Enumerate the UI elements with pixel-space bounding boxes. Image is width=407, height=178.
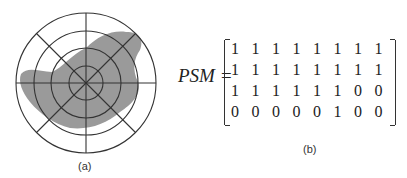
- left-bracket: [225, 39, 230, 126]
- cell: 1: [272, 82, 293, 100]
- cell: 0: [293, 103, 314, 121]
- cell: 1: [272, 61, 293, 79]
- cell: 1: [354, 40, 375, 58]
- matrix-row: 11111111: [231, 40, 395, 58]
- caption-a: (a): [78, 160, 91, 172]
- cell: 1: [334, 40, 355, 58]
- cell: 1: [252, 61, 273, 79]
- right-bracket: [390, 39, 395, 126]
- matrix-row: 11111111: [231, 61, 395, 79]
- cell: 1: [293, 82, 314, 100]
- cell: 1: [293, 40, 314, 58]
- cell: 1: [334, 61, 355, 79]
- matrix-row: 00000100: [231, 103, 395, 121]
- cell: 0: [272, 103, 293, 121]
- cell: 1: [231, 61, 252, 79]
- cell: 1: [354, 61, 375, 79]
- cell: 0: [252, 103, 273, 121]
- cell: 1: [231, 40, 252, 58]
- matrix-row: 11111100: [231, 82, 395, 100]
- cell: 0: [354, 82, 375, 100]
- cell: 1: [293, 61, 314, 79]
- cell: 1: [272, 40, 293, 58]
- cell: 1: [334, 103, 355, 121]
- psm-matrix: 11111111 11111111 11111100 00000100: [224, 40, 396, 125]
- caption-b: (b): [303, 143, 316, 155]
- cell: 1: [252, 82, 273, 100]
- cell: 1: [252, 40, 273, 58]
- cell: 1: [313, 82, 334, 100]
- cell: 1: [231, 82, 252, 100]
- cell: 1: [313, 40, 334, 58]
- cell: 0: [231, 103, 252, 121]
- cell: 1: [313, 61, 334, 79]
- cell: 1: [334, 82, 355, 100]
- cell: 0: [354, 103, 375, 121]
- cell: 0: [313, 103, 334, 121]
- polar-sector-diagram: [0, 0, 175, 178]
